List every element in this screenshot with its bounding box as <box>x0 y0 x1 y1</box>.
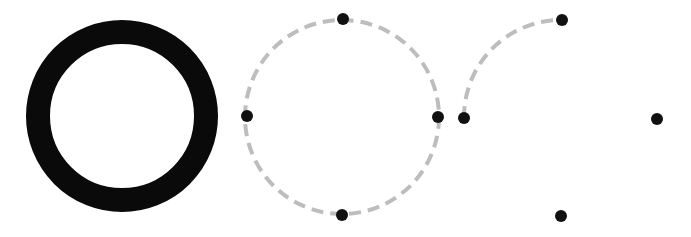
solid-ring <box>38 32 206 200</box>
dashed-arc-figure <box>458 14 663 222</box>
dashed-circle <box>245 20 439 214</box>
arc-points <box>458 14 663 222</box>
point-dot <box>337 13 349 25</box>
point-dot <box>458 112 470 124</box>
point-dot <box>556 14 568 26</box>
point-dot <box>336 209 348 221</box>
point-dot <box>555 210 567 222</box>
point-dot <box>651 113 663 125</box>
dashed-quarter-arc <box>464 20 562 118</box>
point-dot <box>241 110 253 122</box>
point-dot <box>432 111 444 123</box>
dashed-full-circle-figure <box>241 13 444 221</box>
diagram-canvas <box>0 0 691 237</box>
circle-points <box>241 13 444 221</box>
